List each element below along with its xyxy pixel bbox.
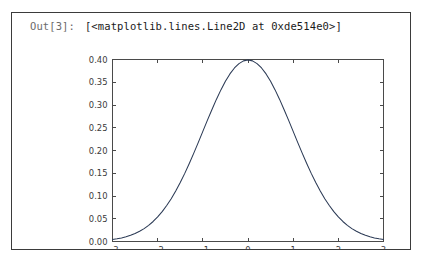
y-tick-label: 0.35 (89, 77, 108, 87)
x-tick-label: 2 (336, 245, 341, 250)
output-repr-text: [<matplotlib.lines.Line2D at 0xde514e0>] (85, 20, 342, 32)
axes-frame (113, 60, 384, 242)
y-tick-label: 0.15 (89, 168, 108, 178)
x-tick-label: 3 (381, 245, 386, 250)
matplotlib-figure: 0.000.050.100.150.200.250.300.350.40−3−2… (12, 35, 412, 249)
y-tick-label: 0.40 (89, 55, 108, 65)
tick-marks-group (113, 60, 384, 242)
notebook-output-cell: Out[3]: [<matplotlib.lines.Line2D at 0xd… (11, 12, 411, 250)
x-tick-label: −3 (106, 245, 118, 250)
y-tick-label: 0.25 (89, 123, 108, 133)
y-tick-label: 0.00 (89, 237, 108, 247)
data-curve-normal-pdf (113, 60, 384, 240)
plot-canvas: 0.000.050.100.150.200.250.300.350.40−3−2… (12, 35, 412, 249)
y-tick-label: 0.30 (89, 100, 108, 110)
x-tick-label: −2 (151, 245, 163, 250)
x-tick-label: −1 (197, 245, 209, 250)
x-tick-label: 1 (290, 245, 295, 250)
y-tick-label: 0.10 (89, 191, 108, 201)
y-tick-label: 0.05 (89, 214, 108, 224)
x-tick-label: 0 (245, 245, 250, 250)
output-prompt-label: Out[3]: (30, 20, 75, 32)
y-tick-label: 0.20 (89, 146, 108, 156)
